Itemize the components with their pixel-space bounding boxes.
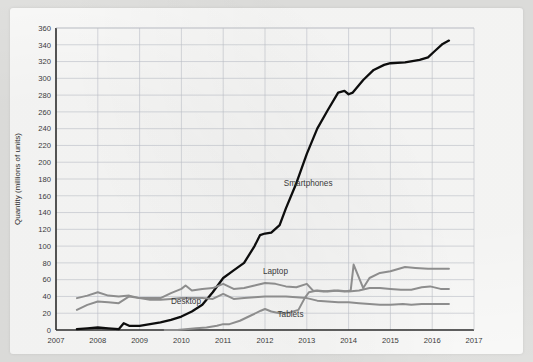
x-tick-label: 2011 [215,336,231,345]
y-tick-label: 160 [38,192,51,201]
y-tick-label: 100 [38,242,51,251]
data-series [77,41,449,330]
y-tick-label: 260 [38,108,51,117]
series-line-smartphones [77,41,449,330]
y-axis-tick-labels: 0204060801001201401601802002202402602803… [38,24,51,335]
chart-svg: 0204060801001201401601802002202402602803… [0,0,533,362]
series-label-tablets: Tablets [278,310,304,319]
y-tick-label: 340 [38,41,51,50]
y-tick-label: 320 [38,57,51,66]
series-label-laptop: Laptop [263,267,288,276]
x-tick-label: 2014 [340,336,357,345]
x-tick-label: 2013 [298,336,315,345]
y-tick-label: 240 [38,124,51,133]
x-tick-label: 2016 [424,336,441,345]
y-tick-label: 280 [38,91,51,100]
series-label-desktop: Desktop [171,297,201,306]
y-tick-label: 200 [38,158,51,167]
x-tick-label: 2007 [48,336,65,345]
x-tick-label: 2008 [89,336,106,345]
y-tick-label: 140 [38,208,51,217]
y-tick-label: 0 [47,326,51,335]
y-axis-title: Quantity (millions of units) [13,133,22,225]
screenshot-root: 0204060801001201401601802002202402602803… [0,0,533,362]
x-tick-label: 2015 [382,336,399,345]
x-tick-label: 2009 [131,336,148,345]
y-tick-label: 120 [38,225,51,234]
y-tick-label: 40 [43,292,51,301]
x-tick-label: 2010 [173,336,190,345]
y-tick-label: 220 [38,141,51,150]
y-tick-label: 20 [43,309,51,318]
y-tick-label: 60 [43,275,51,284]
y-tick-label: 360 [38,24,51,33]
series-label-smartphones: Smartphones [284,179,333,188]
x-axis-tick-labels: 2007200820092010201120122013201420152016… [48,336,483,345]
grid-lines [56,28,474,330]
x-tick-label: 2017 [466,336,483,345]
y-tick-label: 180 [38,175,51,184]
line-chart: 0204060801001201401601802002202402602803… [0,0,533,362]
x-tick-label: 2012 [257,336,274,345]
y-tick-label: 80 [43,259,51,268]
y-tick-label: 300 [38,74,51,83]
